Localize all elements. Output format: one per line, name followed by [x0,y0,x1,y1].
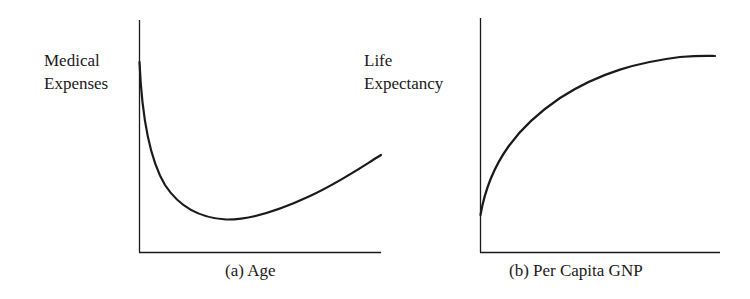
charts-canvas [0,0,750,299]
panel-b-ylabel-line2: Expectancy [364,73,443,95]
panel-a-ylabel-line2: Expenses [44,73,108,95]
panel-a-axes [139,20,381,253]
panel-a-xlabel: (a) Age [225,260,276,282]
panel-a-curve [140,62,382,220]
panel-b-xlabel: (b) Per Capita GNP [509,260,643,282]
figure: Medical Expenses (a) Age Life Expectancy… [0,0,750,299]
panel-b-curve [481,56,716,215]
panel-b-ylabel-line1: Life [364,50,392,72]
panel-a-ylabel-line1: Medical [44,50,100,72]
